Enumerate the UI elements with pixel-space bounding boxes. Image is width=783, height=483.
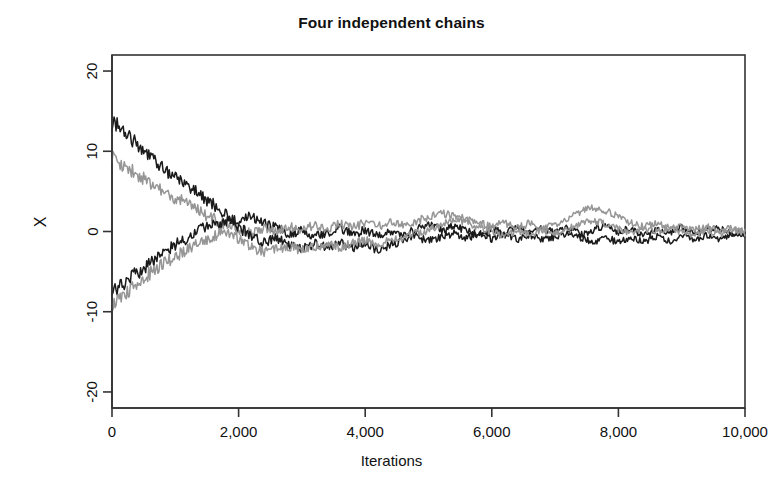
series-line-chain-1 [112,117,745,239]
x-tick-label: 8,000 [600,423,638,440]
y-tick-label: -10 [84,301,101,323]
x-tick-label: 6,000 [473,423,511,440]
plot-area: 02,0004,0006,0008,00010,000-20-1001020 [0,0,783,483]
x-tick-label: 2,000 [220,423,258,440]
y-tick-label: -20 [84,381,101,403]
chart-figure: Four independent chains X Iterations 02,… [0,0,783,483]
x-tick-label: 10,000 [722,423,768,440]
y-tick-label: 20 [84,63,101,80]
y-tick-label: 10 [84,143,101,160]
x-tick-label: 4,000 [346,423,384,440]
x-tick-label: 0 [108,423,116,440]
y-tick-label: 0 [84,227,101,235]
plot-frame [112,55,745,408]
series-line-chain-4 [112,218,745,310]
